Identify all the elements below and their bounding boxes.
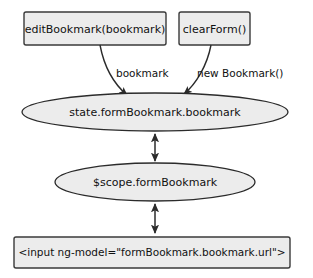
- edge-label-new-bookmark: new Bookmark(): [197, 67, 283, 79]
- node-clear-form[interactable]: clearForm(): [179, 12, 250, 45]
- state-form-bookmark-label: state.formBookmark.bookmark: [69, 106, 241, 119]
- diagram-svg: editBookmark(bookmark) clearForm() bookm…: [0, 0, 313, 278]
- node-edit-bookmark[interactable]: editBookmark(bookmark): [24, 12, 166, 45]
- clear-form-label: clearForm(): [183, 23, 246, 36]
- node-state-form-bookmark[interactable]: state.formBookmark.bookmark: [22, 93, 288, 131]
- node-input-element[interactable]: <input ng-model="formBookmark.bookmark.u…: [14, 237, 290, 268]
- edge-label-bookmark: bookmark: [116, 67, 170, 79]
- edit-bookmark-label: editBookmark(bookmark): [25, 23, 166, 36]
- node-scope-form-bookmark[interactable]: $scope.formBookmark: [55, 163, 255, 201]
- diagram-canvas: editBookmark(bookmark) clearForm() bookm…: [0, 0, 313, 278]
- scope-form-bookmark-label: $scope.formBookmark: [93, 176, 218, 189]
- input-element-label: <input ng-model="formBookmark.bookmark.u…: [18, 246, 285, 258]
